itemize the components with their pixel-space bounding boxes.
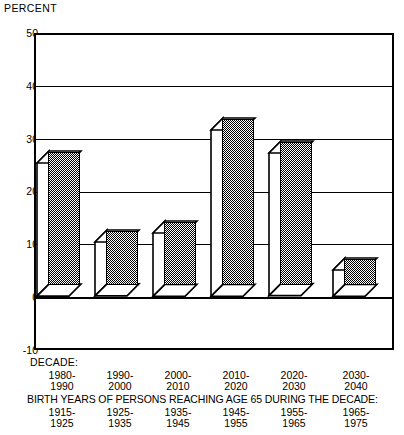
decade-caption: DECADE: (30, 356, 78, 368)
birth-label-4: 1945-1955 (206, 407, 266, 429)
bar-5 (268, 142, 312, 297)
bar-front-face-4 (222, 119, 254, 285)
bars-layer (36, 35, 392, 297)
birth-label-2-line2: 1935 (90, 418, 150, 429)
bar-1 (36, 152, 80, 297)
decade-label-3: 2000-2010 (148, 370, 208, 392)
bar-front-face-3 (164, 222, 196, 285)
decade-label-2: 1990-2000 (90, 370, 150, 392)
decade-label-4-line2: 2020 (206, 381, 266, 392)
bar-front-face-2 (106, 231, 138, 285)
decade-label-6: 2030-2040 (326, 370, 386, 392)
bar-4 (210, 119, 254, 297)
bar-3 (152, 222, 196, 297)
birth-label-1: 1915-1925 (32, 407, 92, 429)
birth-label-5: 1955-1965 (264, 407, 324, 429)
decade-label-5: 2020-2030 (264, 370, 324, 392)
decade-label-6-line2: 2040 (326, 381, 386, 392)
birth-label-6-line2: 1975 (326, 418, 386, 429)
birth-label-4-line2: 1955 (206, 418, 266, 429)
birth-years-caption: BIRTH YEARS OF PERSONS REACHING AGE 65 D… (27, 393, 378, 405)
bar-2 (94, 231, 138, 297)
decade-label-1-line2: 1990 (32, 381, 92, 392)
decade-label-5-line2: 2030 (264, 381, 324, 392)
birth-label-6: 1965-1975 (326, 407, 386, 429)
bar-front-face-1 (48, 152, 80, 285)
decade-label-4: 2010-2020 (206, 370, 266, 392)
bar-6 (332, 259, 376, 297)
birth-label-3: 1935-1945 (148, 407, 208, 429)
bar-front-face-6 (344, 259, 376, 285)
birth-label-5-line2: 1965 (264, 418, 324, 429)
decade-label-2-line2: 2000 (90, 381, 150, 392)
decade-label-3-line2: 2010 (148, 381, 208, 392)
birth-label-3-line2: 1945 (148, 418, 208, 429)
bar-front-face-5 (280, 142, 312, 285)
chart-plot-area (34, 33, 394, 350)
y-axis-title: PERCENT (4, 2, 57, 14)
birth-label-1-line2: 1925 (32, 418, 92, 429)
birth-label-2: 1925-1935 (90, 407, 150, 429)
gridline-zero (36, 297, 392, 299)
decade-label-1: 1980-1990 (32, 370, 92, 392)
